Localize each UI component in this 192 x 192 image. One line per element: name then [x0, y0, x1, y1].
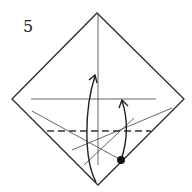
large-fold-arrow-icon [87, 76, 96, 182]
reference-dot-icon [117, 156, 125, 164]
origami-step-diagram: 5 [0, 0, 192, 192]
fold-diagram-svg [0, 0, 192, 192]
